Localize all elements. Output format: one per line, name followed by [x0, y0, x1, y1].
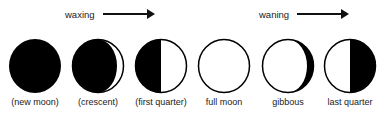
waning-indicator: waning [259, 8, 347, 20]
crescent-moon-icon [71, 38, 125, 94]
phase-label-new-moon: (new moon) [0, 97, 70, 107]
new-moon-icon [8, 38, 62, 94]
gibbous-moon-icon [261, 38, 315, 94]
phase-label-gibbous: gibbous [253, 97, 323, 107]
first-quarter-moon-icon [134, 38, 188, 94]
last-quarter-moon-icon [323, 38, 377, 94]
phase-label-last-quarter: last quarter [315, 97, 385, 107]
full-moon-icon [197, 38, 251, 94]
phase-label-first-quarter: (first quarter) [126, 97, 196, 107]
phase-label-crescent: (crescent) [63, 97, 133, 107]
arrow-right-icon [103, 13, 153, 15]
arrow-right-icon [297, 13, 347, 15]
phase-label-full-moon: full moon [189, 97, 259, 107]
waning-label: waning [259, 9, 289, 20]
waxing-indicator: waxing [65, 8, 153, 20]
waxing-label: waxing [65, 9, 95, 20]
